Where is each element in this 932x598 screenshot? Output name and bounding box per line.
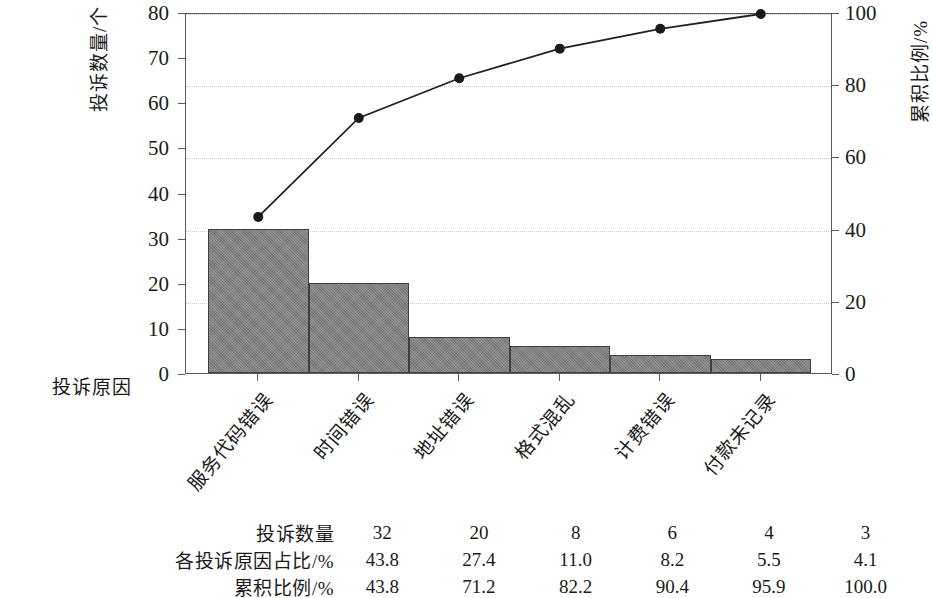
x-axis-tick [659, 374, 660, 381]
table-cell: 95.9 [721, 573, 818, 598]
x-axis-tick [458, 374, 459, 381]
cumulative-marker [253, 212, 263, 222]
table-cell: 90.4 [624, 573, 721, 598]
y-axis-right-tick-label: 100 [845, 3, 893, 24]
y-axis-right-tick [832, 85, 839, 86]
table-cell: 71.2 [431, 573, 528, 598]
cumulative-marker [756, 9, 766, 19]
table-cell: 4 [721, 519, 818, 546]
y-axis-right-title: 累积比例/% [905, 0, 932, 123]
y-axis-left-tick [178, 374, 185, 375]
y-axis-left-tick-label: 70 [129, 48, 169, 69]
y-axis-right-tick [832, 157, 839, 158]
data-summary-table: 投诉数量32208643各投诉原因占比/%43.827.411.08.25.54… [0, 519, 914, 598]
cumulative-line [258, 14, 761, 217]
table-cell: 8.2 [624, 546, 721, 573]
table-row: 各投诉原因占比/%43.827.411.08.25.54.1 [0, 546, 914, 573]
y-axis-right-tick [832, 302, 839, 303]
table-row-label: 投诉数量 [0, 519, 334, 546]
x-axis-tick [358, 374, 359, 381]
table-cell: 100.0 [817, 573, 914, 598]
table-row-label: 各投诉原因占比/% [0, 546, 334, 573]
table-cell: 8 [527, 519, 624, 546]
x-axis-tick [559, 374, 560, 381]
table-cell: 3 [817, 519, 914, 546]
y-axis-right-tick [832, 230, 839, 231]
cumulative-marker [655, 24, 665, 34]
x-axis-category-label: 服务代码错误 [167, 386, 278, 511]
y-axis-left-tick [178, 239, 185, 240]
plot-area [185, 13, 832, 374]
table-row-label: 累积比例/% [0, 573, 334, 598]
y-axis-left-tick-label: 80 [129, 3, 169, 24]
y-axis-right-tick [832, 374, 839, 375]
cumulative-marker [555, 44, 565, 54]
table-cell: 5.5 [721, 546, 818, 573]
table-cell: 43.8 [334, 546, 431, 573]
y-axis-left-tick-label: 20 [129, 274, 169, 295]
cumulative-line-series [186, 14, 833, 375]
x-axis-tick [760, 374, 761, 381]
y-axis-right-tick-label: 0 [845, 364, 893, 385]
y-axis-left-tick-label: 60 [129, 93, 169, 114]
y-axis-left-tick [178, 103, 185, 104]
y-axis-right-tick-label: 60 [845, 147, 893, 168]
y-axis-left-tick [178, 13, 185, 14]
x-axis-title: 投诉原因 [52, 372, 132, 399]
y-axis-left-tick [178, 194, 185, 195]
x-axis-category-label: 付款未记录 [670, 386, 781, 511]
table-cell: 43.8 [334, 573, 431, 598]
x-axis-category-label: 格式混乱 [469, 386, 580, 511]
y-axis-left-tick [178, 148, 185, 149]
y-axis-left-tick-label: 10 [129, 319, 169, 340]
y-axis-left-tick [178, 58, 185, 59]
table-row: 累积比例/%43.871.282.290.495.9100.0 [0, 573, 914, 598]
y-axis-right-tick-label: 40 [845, 220, 893, 241]
y-axis-left-tick [178, 284, 185, 285]
y-axis-left-tick-label: 50 [129, 138, 169, 159]
table-row: 投诉数量32208643 [0, 519, 914, 546]
table-cell: 20 [431, 519, 528, 546]
cumulative-marker [454, 73, 464, 83]
table-cell: 32 [334, 519, 431, 546]
y-axis-right-tick [832, 13, 839, 14]
y-axis-left-tick-label: 0 [129, 364, 169, 385]
y-axis-right-tick-label: 20 [845, 292, 893, 313]
y-axis-left-tick [178, 329, 185, 330]
x-axis-category-label: 地址错误 [368, 386, 479, 511]
y-axis-left-tick-label: 40 [129, 184, 169, 205]
table-cell: 27.4 [431, 546, 528, 573]
x-axis-category-label: 计费错误 [569, 386, 680, 511]
cumulative-marker [354, 113, 364, 123]
x-axis-tick [257, 374, 258, 381]
table-cell: 82.2 [527, 573, 624, 598]
table-cell: 4.1 [817, 546, 914, 573]
y-axis-left-tick-label: 30 [129, 229, 169, 250]
y-axis-left-title: 投诉数量/个 [84, 0, 111, 112]
table-cell: 11.0 [527, 546, 624, 573]
y-axis-right-tick-label: 80 [845, 75, 893, 96]
table-cell: 6 [624, 519, 721, 546]
x-axis-category-label: 时间错误 [268, 386, 379, 511]
